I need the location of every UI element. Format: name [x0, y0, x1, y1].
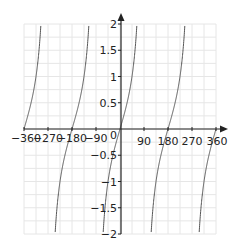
- y-tick-label: 1.5: [100, 44, 118, 57]
- y-axis-arrow-icon: [118, 13, 125, 21]
- x-tick-label: 90: [137, 135, 151, 148]
- y-tick-label: −1.5: [90, 202, 117, 215]
- x-tick-label: 270: [182, 135, 203, 148]
- y-tick-label: −0.5: [90, 149, 117, 162]
- x-axis-arrow-icon: [220, 126, 228, 133]
- y-tick-label: −2: [101, 228, 117, 241]
- x-tick-label: −90: [84, 132, 107, 145]
- x-tick-label: 0: [110, 129, 117, 142]
- x-tick-label: −180: [57, 132, 87, 145]
- tan-branch: [24, 26, 41, 129]
- tan-graph: −360−270−180−9009018027036021.510.5−0.5−…: [0, 0, 238, 249]
- y-tick-label: −1: [101, 176, 117, 189]
- y-tick-label: 1: [110, 71, 117, 84]
- y-tick-label: 2: [110, 18, 117, 31]
- axes: [24, 13, 228, 234]
- y-tick-label: 0.5: [100, 97, 118, 110]
- x-tick-label: 360: [207, 135, 228, 148]
- x-tick-label: 180: [158, 135, 179, 148]
